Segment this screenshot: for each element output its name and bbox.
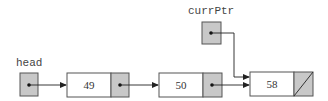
- node-value: 50: [176, 79, 188, 91]
- head-label: head: [16, 57, 42, 69]
- head-pointer: head: [16, 57, 66, 96]
- node-58: 58: [250, 72, 313, 96]
- currptr-pointer: currPtr: [188, 5, 249, 77]
- currptr-label: currPtr: [188, 5, 234, 17]
- node-value: 49: [84, 79, 96, 91]
- linked-list-diagram: head 49 50 58 currPtr: [0, 0, 328, 101]
- node-49: 49: [67, 73, 158, 97]
- node-value: 58: [267, 78, 279, 90]
